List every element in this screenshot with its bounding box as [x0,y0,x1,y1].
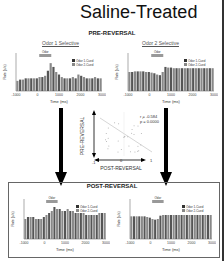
svg-text:Time (ms): Time (ms) [162,99,181,104]
svg-text:Rate (s/s): Rate (s/s) [3,64,7,79]
svg-text:Odor 2-Cued: Odor 2-Cued [186,209,204,213]
svg-text:POST-REVERSAL: POST-REVERSAL [100,165,142,171]
svg-text:0: 0 [150,241,152,245]
svg-text:Odor: Odor [154,50,161,54]
scatter-plot: r = -0.584p = 0.0000PRE-REVERSALPOST-REV… [64,108,164,174]
svg-text:Odor: Odor [42,50,49,54]
svg-text:2000: 2000 [82,241,90,245]
chart-post-odor1: OdorOdor 1-CuedOdor 2-Cued-1000010002000… [10,193,110,253]
svg-text:Odor 2-Cued: Odor 2-Cued [80,209,98,213]
svg-text:PRE-REVERSAL: PRE-REVERSAL [79,116,85,155]
svg-text:0: 0 [44,241,46,245]
svg-text:0: 0 [120,158,123,163]
svg-text:-1000: -1000 [12,93,21,97]
svg-text:-1000: -1000 [20,241,29,245]
svg-text:2000: 2000 [188,241,196,245]
svg-text:1000: 1000 [167,93,175,97]
svg-text:Time (ms): Time (ms) [50,99,69,104]
svg-text:Odor: Odor [155,196,162,200]
svg-text:-1: -1 [92,160,96,165]
svg-text:2000: 2000 [77,93,85,97]
svg-text:3000: 3000 [102,241,110,245]
chart-pre-odor2: OdorOdor 1-CuedOdor 2-Cued-1000010002000… [114,47,218,105]
arrow-down-right-icon [160,108,172,186]
svg-text:1000: 1000 [167,241,175,245]
arrow-down-left-icon [55,108,67,186]
svg-text:Odor 2-Cued: Odor 2-Cued [76,63,94,67]
chart-pre-odor1: OdorOdor 1-CuedOdor 2-Cued-1000010002000… [2,47,106,105]
svg-text:3000: 3000 [98,93,106,97]
svg-text:0: 0 [37,93,39,97]
odor2-selective-title: Odor 2 Selective [142,40,179,46]
figure-title: Saline-Treated [80,2,197,23]
chart-post-odor2: OdorOdor 1-CuedOdor 2-Cued-1000010002000… [116,193,216,253]
svg-text:Rate (s/s): Rate (s/s) [115,64,119,79]
svg-text:Rate (s/s): Rate (s/s) [11,211,15,226]
svg-text:-1000: -1000 [126,241,135,245]
post-reversal-label: POST-REVERSAL [0,183,224,189]
svg-text:1000: 1000 [55,93,63,97]
svg-text:0: 0 [149,93,151,97]
svg-text:3000: 3000 [208,241,216,245]
page-edge [222,0,224,261]
svg-text:-1000: -1000 [124,93,133,97]
svg-text:1: 1 [150,158,153,163]
svg-text:Odor: Odor [49,196,56,200]
svg-text:Rate (s/s): Rate (s/s) [117,211,121,226]
svg-text:Time (ms): Time (ms) [162,247,181,252]
svg-text:Time (ms): Time (ms) [56,247,75,252]
pre-reversal-label: PRE-REVERSAL [0,30,224,36]
odor1-selective-title: Odor 1 Selective [42,40,79,46]
svg-text:1000: 1000 [61,241,69,245]
svg-text:Odor 2-Cued: Odor 2-Cued [188,63,206,67]
svg-text:3000: 3000 [210,93,218,97]
svg-text:p = 0.0000: p = 0.0000 [140,119,160,124]
svg-text:2000: 2000 [189,93,197,97]
